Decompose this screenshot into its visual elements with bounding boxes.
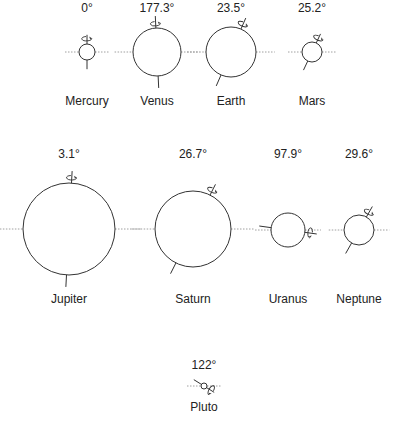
planet-name-neptune: Neptune [336, 292, 382, 306]
axial-tilt-diagram: 0°Mercury177.3°Venus23.5°Earth25.2°Mars3… [0, 0, 408, 428]
planet-circle-mars [302, 42, 322, 62]
tilt-label-neptune: 29.6° [345, 147, 373, 161]
planet-name-uranus: Uranus [269, 292, 308, 306]
planet-venus: 177.3°Venus [115, 1, 200, 108]
tilt-label-venus: 177.3° [140, 1, 175, 15]
planet-name-saturn: Saturn [175, 292, 210, 306]
planet-name-jupiter: Jupiter [51, 292, 87, 306]
planet-name-venus: Venus [140, 94, 173, 108]
planet-circle-venus [133, 28, 181, 76]
tilt-label-mercury: 0° [81, 1, 93, 15]
planet-mars: 25.2°Mars [288, 1, 336, 108]
planet-uranus: 97.9°Uranus [255, 147, 321, 306]
planet-circle-pluto [201, 383, 207, 389]
tilt-label-mars: 25.2° [298, 1, 326, 15]
tilt-label-jupiter: 3.1° [58, 147, 80, 161]
planet-jupiter: 3.1°Jupiter [0, 147, 141, 306]
tilt-label-pluto: 122° [192, 358, 217, 372]
planet-neptune: 29.6°Neptune [329, 147, 390, 306]
planet-saturn: 26.7°Saturn [132, 147, 255, 306]
planet-circle-uranus [271, 213, 305, 247]
planet-circle-mercury [79, 44, 95, 60]
tilt-label-earth: 23.5° [217, 1, 245, 15]
planet-circle-saturn [155, 191, 231, 267]
planet-pluto: 122°Pluto [187, 358, 221, 414]
planet-name-mercury: Mercury [65, 94, 108, 108]
planet-name-earth: Earth [217, 94, 246, 108]
planet-circle-earth [206, 27, 256, 77]
tilt-label-uranus: 97.9° [274, 147, 302, 161]
planet-circle-neptune [344, 215, 374, 245]
planet-name-pluto: Pluto [190, 400, 218, 414]
planet-earth: 23.5°Earth [187, 1, 275, 108]
planet-name-mars: Mars [299, 94, 326, 108]
tilt-label-saturn: 26.7° [179, 147, 207, 161]
planet-mercury: 0°Mercury [65, 1, 109, 108]
planet-circle-jupiter [23, 183, 115, 275]
